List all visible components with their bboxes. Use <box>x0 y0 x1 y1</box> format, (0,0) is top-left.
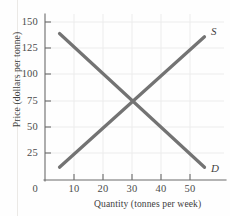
x-tick-label-10: 10 <box>63 183 85 194</box>
supply-demand-chart: 150 125 100 75 50 25 0 10 20 30 40 50 Pr… <box>0 0 230 216</box>
x-tick-label-50: 50 <box>179 183 201 194</box>
supply-curve-label: S <box>211 25 217 37</box>
demand-curve-label: D <box>211 162 219 174</box>
x-tick-label-20: 20 <box>92 183 114 194</box>
x-tick-marks <box>74 174 190 180</box>
y-tick-marks <box>45 22 51 153</box>
x-axis-title: Quantity (tonnes per week) <box>94 198 201 209</box>
y-axis-title: Price (dollars per tonne) <box>11 10 22 150</box>
x-tick-label-40: 40 <box>150 183 172 194</box>
y-tick-label-0: 0 <box>12 183 38 194</box>
x-tick-label-30: 30 <box>121 183 143 194</box>
